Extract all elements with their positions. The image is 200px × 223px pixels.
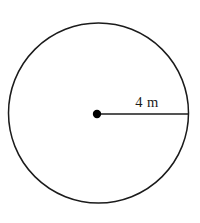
circle-diagram-canvas: 4 m xyxy=(0,0,200,223)
radius-measurement-label: 4 m xyxy=(135,94,159,110)
circle-center-point xyxy=(93,110,101,118)
circle-diagram-svg: 4 m xyxy=(0,0,200,223)
